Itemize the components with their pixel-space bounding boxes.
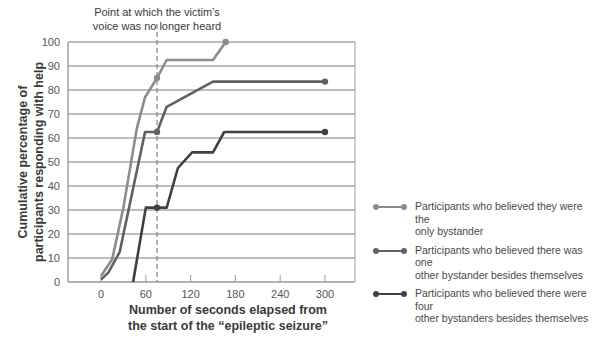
x-tick-label: 0 [98, 288, 104, 300]
legend-label: Participants who believed there were fou… [415, 287, 595, 325]
x-axis-title: Number of seconds elapsed fromthe start … [128, 303, 328, 333]
legend-item-four-others: Participants who believed there were fou… [373, 287, 595, 325]
y-tick-label: 10 [48, 252, 60, 264]
data-point-marker [322, 78, 328, 84]
y-tick-label: 0 [54, 276, 60, 288]
annotation-line: voice was no longer heard [93, 20, 221, 32]
y-axis-title: Cumulative percentage ofparticipants res… [16, 62, 46, 262]
series-line-1 [101, 82, 325, 280]
x-tick-label: 240 [271, 288, 289, 300]
x-title-line: Number of seconds elapsed from [129, 303, 327, 317]
annotation-text: Point at which the victim’svoice was no … [93, 6, 221, 32]
x-tick-label: 120 [181, 288, 199, 300]
annotation-line: Point at which the victim’s [94, 6, 220, 18]
legend-swatch-icon [373, 200, 407, 214]
y-tick-label: 30 [48, 204, 60, 216]
series-line-2 [133, 132, 325, 282]
data-point-marker [154, 204, 160, 210]
data-point-marker [322, 129, 328, 135]
legend-item-only-bystander: Participants who believed they were theo… [373, 200, 595, 238]
y-tick-label: 20 [48, 228, 60, 240]
y-tick-label: 40 [48, 180, 60, 192]
y-tick-label: 80 [48, 84, 60, 96]
data-point-marker [154, 129, 160, 135]
legend-item-one-other: Participants who believed there was oneo… [373, 244, 595, 282]
data-point-marker [222, 39, 228, 45]
legend-label: Participants who believed there was oneo… [415, 244, 595, 282]
legend-label: Participants who believed they were theo… [415, 200, 595, 238]
x-tick-label: 60 [140, 288, 152, 300]
x-tick-label: 300 [316, 288, 334, 300]
y-title-line: Cumulative percentage of [16, 85, 30, 239]
data-series [101, 39, 328, 282]
gridlines [68, 42, 355, 258]
y-title-line: participants responding with help [32, 62, 46, 262]
x-title-line: the start of the “epileptic seizure” [128, 319, 328, 333]
y-tick-label: 100 [42, 36, 60, 48]
series-line-0 [101, 42, 226, 276]
x-tick-label: 180 [226, 288, 244, 300]
y-tick-label: 60 [48, 132, 60, 144]
y-tick-label: 70 [48, 108, 60, 120]
y-tick-label: 50 [48, 156, 60, 168]
legend-swatch-icon [373, 244, 407, 258]
legend-swatch-icon [373, 287, 407, 301]
y-tick-label: 90 [48, 60, 60, 72]
legend: Participants who believed they were theo… [373, 200, 595, 331]
data-point-marker [154, 75, 160, 81]
